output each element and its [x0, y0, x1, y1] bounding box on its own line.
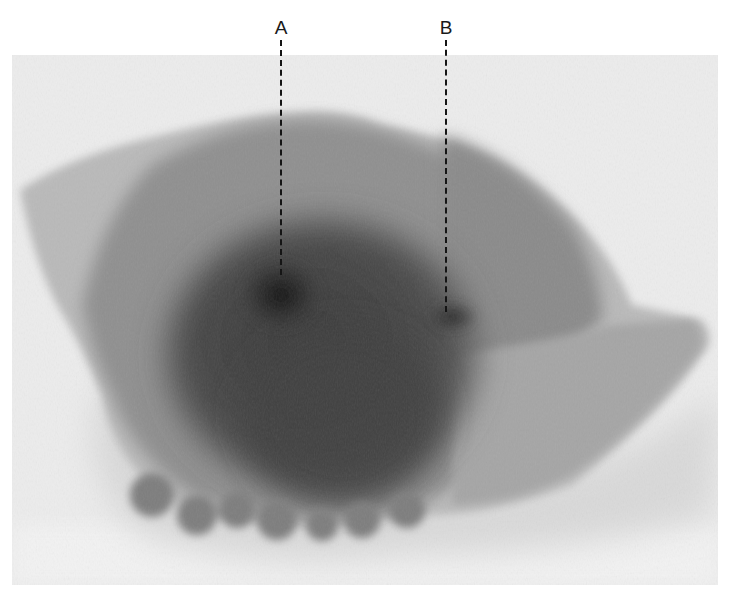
annotation-label-a: A	[275, 18, 288, 38]
annotation-leader-line-a	[280, 40, 282, 275]
specimen-figure: A B	[0, 0, 731, 597]
annotation-label-b: B	[440, 18, 453, 38]
radiograph-image	[12, 55, 718, 585]
annotation-leader-line-b	[445, 40, 447, 312]
